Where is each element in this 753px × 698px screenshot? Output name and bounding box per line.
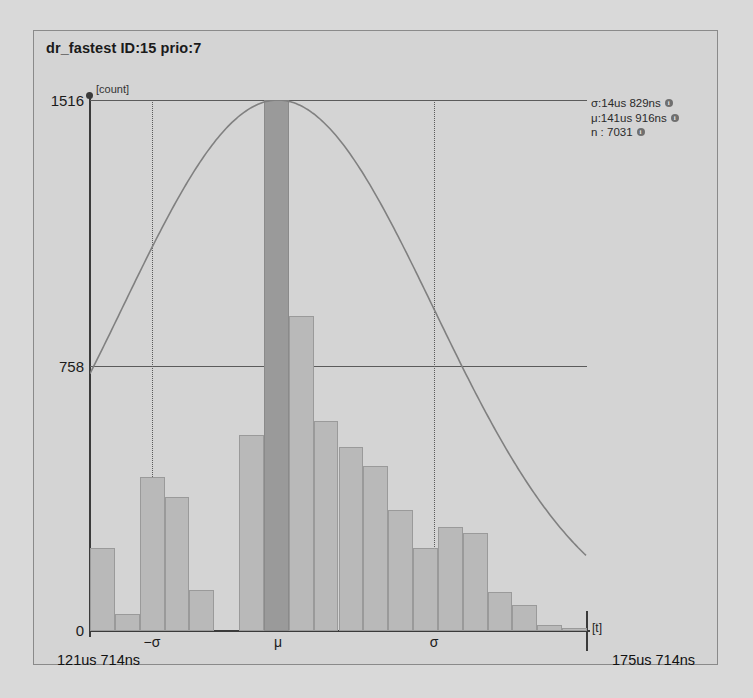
x-axis-unit-label: [t] [592, 621, 602, 635]
y-axis-zero-label: 0 [28, 622, 84, 639]
y-axis-unit-label: [count] [96, 83, 129, 95]
info-icon[interactable]: i [637, 128, 645, 136]
statistics-legend: σ:14us 829ns i μ:141us 916ns i n : 7031 … [591, 96, 679, 140]
legend-mu-value: μ:141us 916ns [591, 111, 667, 126]
y-axis-mid-label: 758 [28, 358, 84, 375]
legend-row-mu: μ:141us 916ns i [591, 111, 679, 126]
x-axis-max-label: 175us 714ns [612, 652, 695, 668]
y-axis-max-label: 1516 [28, 92, 84, 109]
gaussian-fit-curve [90, 100, 587, 631]
legend-row-sigma: σ:14us 829ns i [591, 96, 679, 111]
x-axis-min-label: 121us 714ns [57, 652, 140, 668]
x-tick-minus-sigma: −σ [144, 634, 161, 650]
info-icon[interactable]: i [665, 99, 673, 107]
x-tick-sigma: σ [430, 634, 439, 650]
y-axis-arrow-cap [86, 92, 93, 99]
page-title: dr_fastest ID:15 prio:7 [46, 40, 201, 56]
legend-n-value: n : 7031 [591, 125, 633, 140]
legend-row-n: n : 7031 i [591, 125, 679, 140]
info-icon[interactable]: i [671, 114, 679, 122]
x-tick-mu: μ [274, 634, 282, 650]
legend-sigma-value: σ:14us 829ns [591, 96, 661, 111]
plot-area [90, 100, 587, 631]
